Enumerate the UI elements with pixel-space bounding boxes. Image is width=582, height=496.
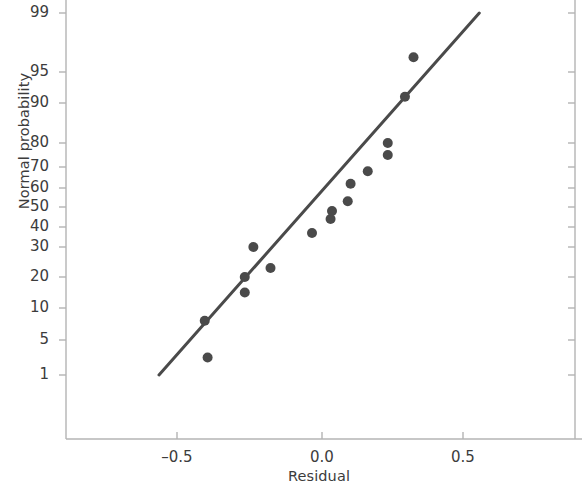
data-point: [346, 179, 356, 189]
y-tick-label-70: 70: [9, 159, 49, 174]
x-axis-title: Residual: [0, 468, 582, 484]
x-tick-label-0: –0.5: [142, 450, 212, 465]
data-point: [307, 228, 317, 238]
y-tick-label-40: 40: [9, 219, 49, 234]
x-tick-label-1: 0.0: [287, 450, 357, 465]
data-point: [400, 92, 410, 102]
y-tick-label-50: 50: [9, 199, 49, 214]
y-tick-label-95: 95: [9, 64, 49, 79]
y-tick-label-80: 80: [9, 135, 49, 150]
x-tick-label-2: 0.5: [428, 450, 498, 465]
data-point: [266, 263, 276, 273]
y-tick-label-30: 30: [9, 239, 49, 254]
y-tick-label-20: 20: [9, 269, 49, 284]
data-point: [327, 206, 337, 216]
normal-probability-plot-figure: Normal probability Residual 151020304050…: [0, 0, 582, 496]
data-point: [383, 138, 393, 148]
data-point: [203, 353, 213, 363]
y-tick-label-99: 99: [9, 5, 49, 20]
y-tick-label-60: 60: [9, 180, 49, 195]
data-point: [383, 150, 393, 160]
y-tick-label-5: 5: [9, 332, 49, 347]
data-point: [200, 316, 210, 326]
y-tick-label-10: 10: [9, 300, 49, 315]
y-tick-label-1: 1: [9, 367, 49, 382]
data-point: [240, 288, 250, 298]
data-point: [240, 272, 250, 282]
data-point: [343, 196, 353, 206]
data-point: [248, 242, 258, 252]
data-point: [363, 166, 373, 176]
data-point: [409, 52, 419, 62]
y-tick-label-90: 90: [9, 95, 49, 110]
plot-canvas: [0, 0, 582, 496]
